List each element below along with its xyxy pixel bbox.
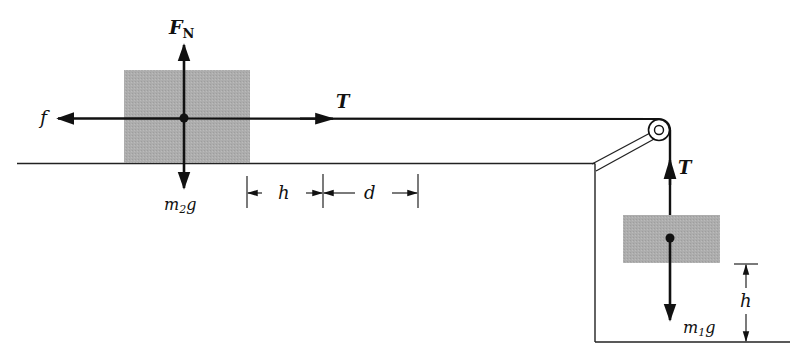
center-dot-m1 bbox=[666, 234, 675, 243]
label-tension-vertical: T bbox=[678, 157, 693, 178]
label-tension-horizontal: T bbox=[336, 91, 351, 112]
rope-horizontal bbox=[184, 119, 659, 120]
label-dim-h-vertical: h bbox=[740, 290, 752, 311]
label-dim-h-horizontal: h bbox=[278, 182, 290, 203]
label-weight-m2: m2g bbox=[164, 195, 196, 216]
free-body-diagram: FN f T T m2g m1g h d h bbox=[0, 0, 810, 364]
pulley-icon bbox=[649, 120, 670, 141]
label-dim-d: d bbox=[364, 182, 376, 203]
label-normal-force: FN bbox=[168, 16, 195, 41]
label-friction: f bbox=[38, 106, 50, 128]
center-dot-m2 bbox=[180, 114, 189, 123]
label-weight-m1: m1g bbox=[683, 318, 715, 339]
table bbox=[17, 164, 595, 343]
dimension-h-d bbox=[247, 174, 418, 208]
pulley-bracket bbox=[592, 132, 656, 171]
